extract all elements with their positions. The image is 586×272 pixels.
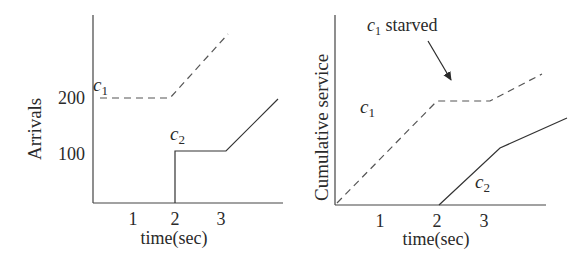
left-c1-label: c1 <box>93 74 108 98</box>
starved-annotation: c1 starved <box>367 15 437 38</box>
left-series-c1 <box>100 34 228 98</box>
left-xtick-1: 1 <box>129 209 138 229</box>
left-x-axis-label: time(sec) <box>141 228 208 249</box>
left-xtick-3: 3 <box>217 209 226 229</box>
starved-arrow-icon <box>428 41 451 80</box>
left-y-axis-label: Arrivals <box>24 98 45 160</box>
right-y-axis-label: Cumulative service <box>311 54 332 201</box>
figure: Arrivals 200 100 1 2 3 time(sec) c1 c2 C… <box>0 0 586 272</box>
left-xtick-2: 2 <box>171 209 180 229</box>
cumulative-service-chart: Cumulative service 1 2 3 time(sec) c1 st… <box>311 15 567 250</box>
right-xtick-1: 1 <box>376 211 385 231</box>
left-ytick-200: 200 <box>58 88 85 108</box>
arrivals-chart: Arrivals 200 100 1 2 3 time(sec) c1 c2 <box>24 15 283 249</box>
right-xtick-3: 3 <box>480 211 489 231</box>
right-series-c1 <box>337 74 542 203</box>
left-ytick-100: 100 <box>58 144 85 164</box>
right-c2-label: c2 <box>475 171 490 195</box>
right-x-axis-label: time(sec) <box>403 229 470 250</box>
right-series-c2 <box>439 118 567 205</box>
left-series-c2 <box>175 99 278 203</box>
right-xtick-2: 2 <box>433 211 442 231</box>
left-c2-label: c2 <box>170 123 185 147</box>
right-c1-label: c1 <box>360 96 375 120</box>
